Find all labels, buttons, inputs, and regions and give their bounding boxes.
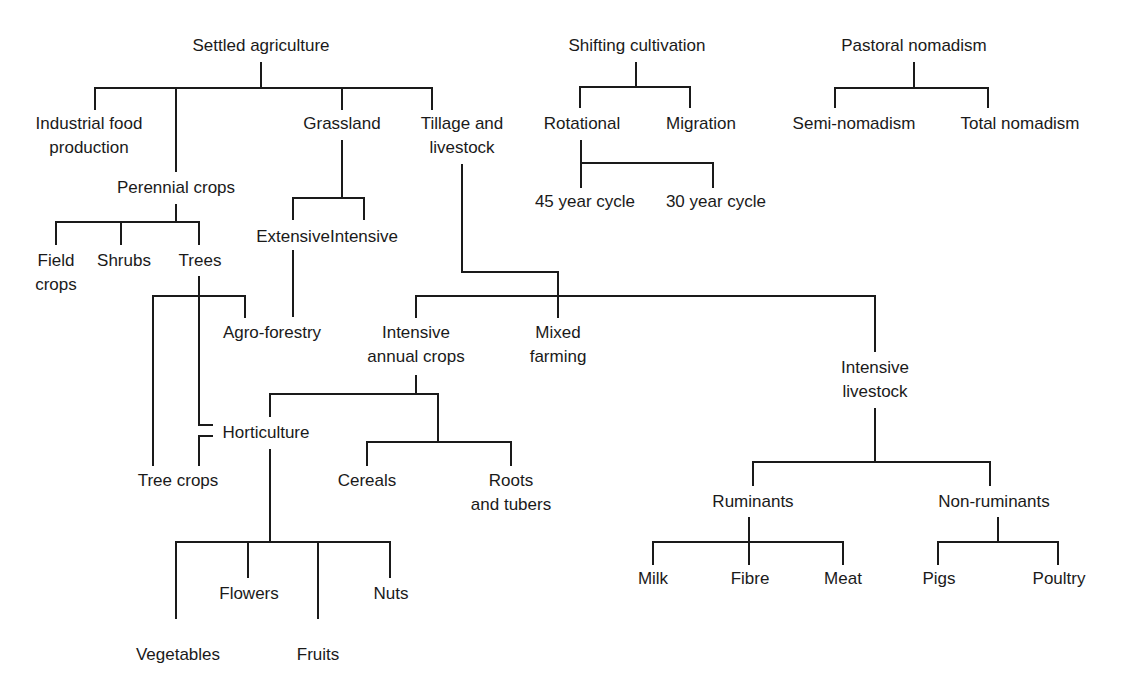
node-total-nomadism: Total nomadism [960,112,1079,136]
node-45-year-cycle: 45 year cycle [535,190,635,214]
node-fruits: Fruits [297,643,340,667]
node-tillage-and-livestock: Tillage andlivestock [421,112,504,160]
node-flowers: Flowers [219,582,279,606]
agriculture-classification-diagram: Settled agriculture Industrial foodprodu… [0,0,1125,698]
node-grassland: Grassland [303,112,380,136]
node-cereals: Cereals [338,469,397,493]
node-industrial-food-production: Industrial foodproduction [36,112,143,160]
node-poultry: Poultry [1033,567,1086,591]
node-field-crops: Fieldcrops [35,249,77,297]
node-pastoral-nomadism: Pastoral nomadism [841,34,987,58]
node-intensive-grassland: Intensive [330,225,398,249]
node-vegetables: Vegetables [136,643,220,667]
node-30-year-cycle: 30 year cycle [666,190,766,214]
node-shrubs: Shrubs [97,249,151,273]
node-nuts: Nuts [374,582,409,606]
node-fibre: Fibre [731,567,770,591]
node-semi-nomadism: Semi-nomadism [793,112,916,136]
node-rotational: Rotational [544,112,621,136]
node-agro-forestry: Agro-forestry [223,321,321,345]
node-migration: Migration [666,112,736,136]
node-ruminants: Ruminants [712,490,793,514]
node-meat: Meat [824,567,862,591]
node-tree-crops: Tree crops [138,469,219,493]
node-non-ruminants: Non-ruminants [938,490,1050,514]
node-horticulture: Horticulture [223,421,310,445]
node-intensive-livestock: Intensivelivestock [841,356,909,404]
node-extensive: Extensive [256,225,330,249]
node-intensive-annual-crops: Intensiveannual crops [367,321,464,369]
node-shifting-cultivation: Shifting cultivation [568,34,705,58]
node-settled-agriculture: Settled agriculture [192,34,329,58]
node-milk: Milk [638,567,668,591]
node-trees: Trees [179,249,222,273]
node-perennial-crops: Perennial crops [117,176,235,200]
node-pigs: Pigs [922,567,955,591]
node-roots-and-tubers: Rootsand tubers [471,469,551,517]
node-mixed-farming: Mixedfarming [530,321,587,369]
